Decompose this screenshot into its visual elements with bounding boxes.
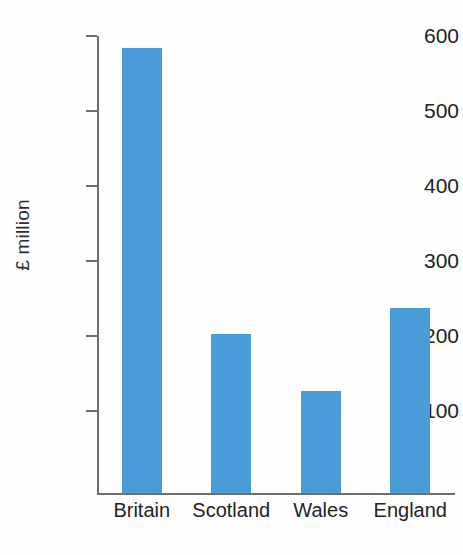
x-axis-label-wales: Wales — [276, 500, 366, 520]
y-axis-tick — [86, 110, 97, 112]
bar-england — [390, 308, 430, 494]
x-axis-label-britain: Britain — [97, 500, 187, 520]
y-axis-title: £ million — [0, 0, 46, 470]
x-axis-label-england: England — [366, 500, 456, 520]
y-axis-tick — [86, 260, 97, 262]
y-axis-tick-label: 400 — [379, 175, 463, 196]
y-axis-tick — [86, 35, 97, 37]
y-axis-tick — [86, 335, 97, 337]
y-axis-tick-label: 600 — [379, 25, 463, 46]
y-axis-title-text: £ million — [12, 199, 34, 271]
bar-scotland — [211, 334, 251, 493]
x-axis-label-scotland: Scotland — [187, 500, 277, 520]
bar-wales — [301, 391, 341, 493]
y-axis-tick-label: 500 — [379, 100, 463, 121]
y-axis-line — [97, 36, 99, 495]
y-axis-tick — [86, 410, 97, 412]
bar-britain — [122, 48, 162, 493]
y-axis-tick-label: 300 — [379, 250, 463, 271]
bar-chart: £ million 100200300400500600BritainScotl… — [0, 0, 463, 555]
y-axis-tick — [86, 185, 97, 187]
x-axis-line — [97, 493, 455, 495]
